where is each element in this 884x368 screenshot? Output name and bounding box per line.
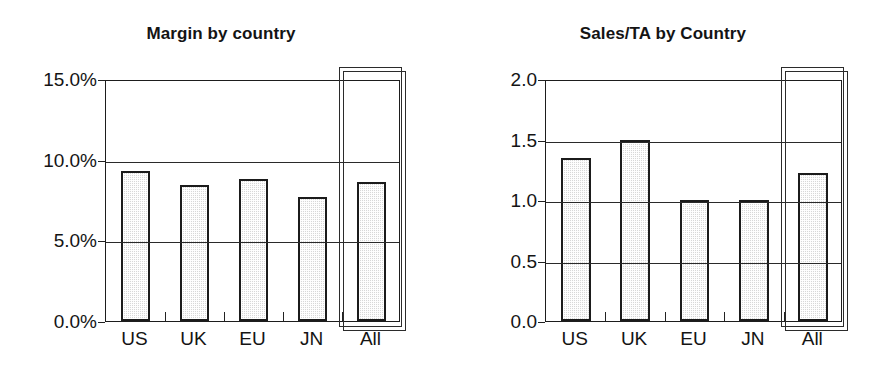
- chart-title-left: Margin by country: [0, 24, 442, 44]
- bar-jn: [298, 197, 328, 321]
- bar-eu: [680, 200, 710, 321]
- chart-title-right: Sales/TA by Country: [442, 24, 884, 44]
- y-axis-tick-mark: [538, 262, 545, 263]
- two-panel-bar-chart-figure: Margin by country 0.0%5.0%10.0%15.0% USU…: [0, 0, 884, 368]
- x-axis-minor-tick: [283, 312, 284, 321]
- x-axis-tick-label-jn: JN: [282, 328, 341, 350]
- bar-us: [561, 158, 591, 321]
- x-axis-tick-label-us: US: [545, 328, 604, 350]
- bar-eu: [239, 179, 269, 321]
- x-axis-tick-label-uk: UK: [164, 328, 223, 350]
- highlight-box-inner: [781, 67, 844, 327]
- x-axis-minor-tick: [165, 312, 166, 321]
- y-axis-tick-label: 1.5: [449, 131, 537, 150]
- y-axis-tick-mark: [538, 201, 545, 202]
- y-axis-tick-mark: [538, 322, 545, 323]
- x-axis-minor-tick: [605, 312, 606, 321]
- chart-panel-margin-by-country: Margin by country 0.0%5.0%10.0%15.0% USU…: [0, 0, 442, 368]
- y-axis-tick-label: 5.0%: [9, 231, 97, 250]
- y-axis-tick-mark: [98, 322, 105, 323]
- x-axis-tick-label-eu: EU: [664, 328, 723, 350]
- bar-us: [121, 171, 151, 321]
- x-axis-minor-tick: [224, 312, 225, 321]
- x-axis-tick-label-all: All: [341, 328, 400, 350]
- y-axis-tick-mark: [98, 241, 105, 242]
- y-axis-tick-mark: [98, 80, 105, 81]
- x-axis-minor-tick: [724, 312, 725, 321]
- y-axis-tick-label: 0.0%: [9, 312, 97, 331]
- y-axis-tick-label: 1.0: [449, 191, 537, 210]
- x-axis-tick-label-eu: EU: [223, 328, 282, 350]
- x-axis-minor-tick: [665, 312, 666, 321]
- y-axis-tick-label: 0.0: [449, 312, 537, 331]
- chart-panel-sales-ta-by-country: Sales/TA by Country 0.00.51.01.52.0 USUK…: [442, 0, 884, 368]
- bar-uk: [620, 140, 650, 322]
- x-axis-tick-label-all: All: [783, 328, 842, 350]
- bar-uk: [180, 185, 210, 321]
- y-axis-tick-label: 0.5: [449, 252, 537, 271]
- y-axis-tick-label: 15.0%: [9, 70, 97, 89]
- y-axis-tick-label: 2.0: [449, 70, 537, 89]
- y-axis-tick-mark: [538, 141, 545, 142]
- y-axis-tick-label: 10.0%: [9, 151, 97, 170]
- y-axis-tick-mark: [538, 80, 545, 81]
- x-axis-tick-label-us: US: [105, 328, 164, 350]
- bar-jn: [739, 200, 769, 321]
- x-axis-tick-label-uk: UK: [604, 328, 663, 350]
- highlight-box-inner: [339, 67, 402, 327]
- y-axis-tick-mark: [98, 161, 105, 162]
- x-axis-tick-label-jn: JN: [723, 328, 782, 350]
